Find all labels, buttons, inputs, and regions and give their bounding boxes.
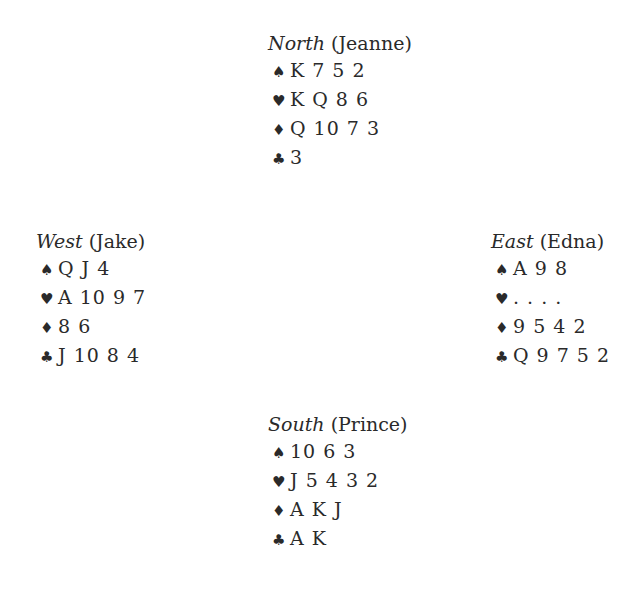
hand-title: South (Prince) [268, 411, 408, 438]
hearts-row: ♥K Q 8 6 [268, 86, 412, 115]
diamonds-row: ♦8 6 [36, 313, 146, 342]
spade-icon: ♠ [272, 440, 290, 467]
spade-icon: ♠ [495, 257, 513, 284]
diamond-icon: ♦ [272, 498, 290, 525]
hearts-cards: . . . . [513, 286, 562, 308]
club-icon: ♣ [272, 146, 290, 173]
diamonds-row: ♦A K J [268, 496, 408, 525]
diamonds-cards: A K J [290, 498, 343, 520]
heart-icon: ♥ [272, 88, 290, 115]
player-name: (Prince) [331, 413, 408, 435]
clubs-row: ♣A K [268, 525, 408, 554]
diamonds-row: ♦9 5 4 2 [491, 313, 610, 342]
north-hand: North (Jeanne) ♠K 7 5 2 ♥K Q 8 6 ♦Q 10 7… [268, 30, 412, 173]
diamond-icon: ♦ [495, 315, 513, 342]
spades-row: ♠10 6 3 [268, 438, 408, 467]
diamond-icon: ♦ [272, 117, 290, 144]
heart-icon: ♥ [40, 286, 58, 313]
hearts-row: ♥A 10 9 7 [36, 284, 146, 313]
direction-label: North [268, 32, 325, 54]
direction-label: South [268, 413, 325, 435]
club-icon: ♣ [272, 527, 290, 554]
spades-row: ♠Q J 4 [36, 255, 146, 284]
diamond-icon: ♦ [40, 315, 58, 342]
direction-label: West [36, 230, 83, 252]
direction-label: East [491, 230, 534, 252]
clubs-row: ♣3 [268, 144, 412, 173]
diamonds-cards: 9 5 4 2 [513, 315, 586, 337]
spades-cards: K 7 5 2 [290, 59, 366, 81]
hearts-row: ♥J 5 4 3 2 [268, 467, 408, 496]
player-name: (Edna) [540, 230, 604, 252]
clubs-row: ♣Q 9 7 5 2 [491, 342, 610, 371]
heart-icon: ♥ [272, 469, 290, 496]
club-icon: ♣ [40, 344, 58, 371]
hand-title: East (Edna) [491, 228, 610, 255]
diamonds-cards: Q 10 7 3 [290, 117, 380, 139]
west-hand: West (Jake) ♠Q J 4 ♥A 10 9 7 ♦8 6 ♣J 10 … [36, 228, 146, 371]
spades-cards: 10 6 3 [290, 440, 356, 462]
spades-row: ♠K 7 5 2 [268, 57, 412, 86]
player-name: (Jake) [89, 230, 146, 252]
east-hand: East (Edna) ♠A 9 8 ♥. . . . ♦9 5 4 2 ♣Q … [491, 228, 610, 371]
hand-title: North (Jeanne) [268, 30, 412, 57]
clubs-cards: A K [290, 527, 327, 549]
spades-cards: A 9 8 [513, 257, 568, 279]
hearts-cards: J 5 4 3 2 [290, 469, 379, 491]
club-icon: ♣ [495, 344, 513, 371]
clubs-row: ♣J 10 8 4 [36, 342, 146, 371]
clubs-cards: J 10 8 4 [58, 344, 140, 366]
clubs-cards: Q 9 7 5 2 [513, 344, 610, 366]
heart-icon: ♥ [495, 286, 513, 313]
hearts-row: ♥. . . . [491, 284, 610, 313]
clubs-cards: 3 [290, 146, 303, 168]
south-hand: South (Prince) ♠10 6 3 ♥J 5 4 3 2 ♦A K J… [268, 411, 408, 554]
diamonds-row: ♦Q 10 7 3 [268, 115, 412, 144]
spades-row: ♠A 9 8 [491, 255, 610, 284]
spades-cards: Q J 4 [58, 257, 110, 279]
hearts-cards: K Q 8 6 [290, 88, 369, 110]
spade-icon: ♠ [272, 59, 290, 86]
spade-icon: ♠ [40, 257, 58, 284]
player-name: (Jeanne) [331, 32, 412, 54]
hearts-cards: A 10 9 7 [58, 286, 146, 308]
diamonds-cards: 8 6 [58, 315, 91, 337]
hand-title: West (Jake) [36, 228, 146, 255]
